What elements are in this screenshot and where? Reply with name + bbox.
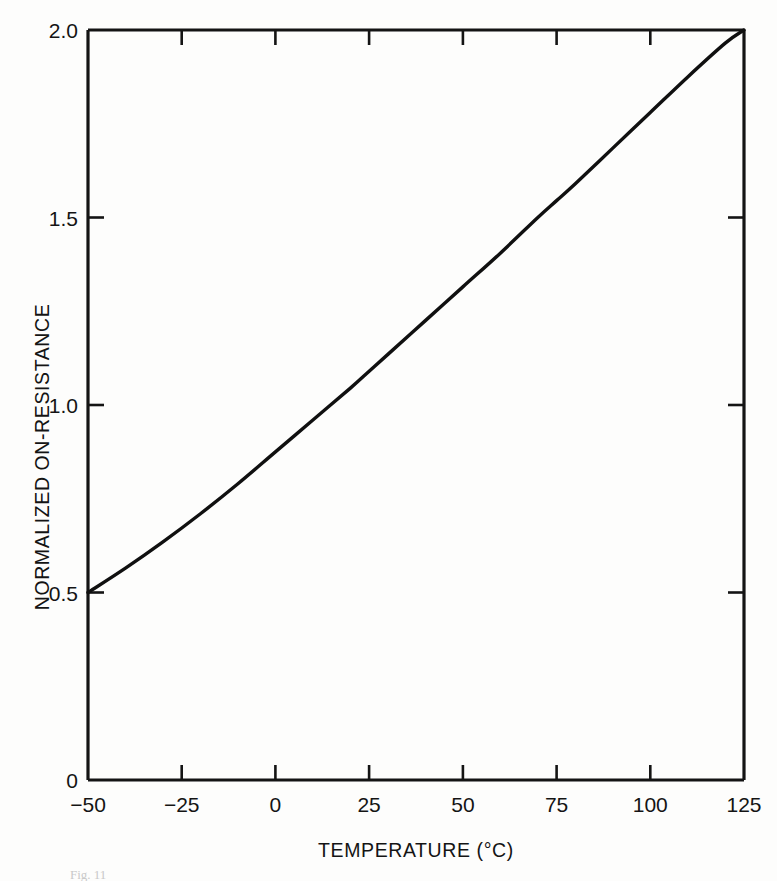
x-tick-label--25: −25 [164,793,200,816]
x-tick-label-0: 0 [270,793,282,816]
chart-canvas: 2.0 1.5 1.0 0.5 0 −50 −25 0 25 50 75 100… [0,0,777,881]
x-axis-title: TEMPERATURE (°C) [318,839,514,861]
y-tick-labels: 2.0 1.5 1.0 0.5 0 [49,19,78,792]
y-tick-label-1.5: 1.5 [49,207,78,230]
x-tick-label-125: 125 [726,793,761,816]
x-tick-labels: −50 −25 0 25 50 75 100 125 [70,793,761,816]
figure-container: 2.0 1.5 1.0 0.5 0 −50 −25 0 25 50 75 100… [0,0,777,881]
y-axis-ticks [88,218,744,593]
plot-frame [88,30,744,780]
x-tick-label-100: 100 [633,793,668,816]
x-axis-ticks [182,30,651,780]
x-tick-label-50: 50 [451,793,474,816]
y-tick-label-0.5: 0.5 [49,582,78,605]
x-tick-label-75: 75 [545,793,568,816]
data-series-line [88,30,744,593]
y-axis-title: NORMALIZED ON-RESISTANCE [31,304,53,611]
x-tick-label--50: −50 [70,793,106,816]
y-tick-label-1.0: 1.0 [49,394,78,417]
x-tick-label-25: 25 [357,793,380,816]
y-tick-label-0: 0 [66,769,78,792]
y-tick-label-2.0: 2.0 [49,19,78,42]
figure-caption: Fig. 11 [70,867,106,881]
